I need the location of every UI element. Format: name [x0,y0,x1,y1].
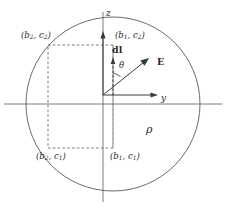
corner-bottom-left-height-sub: 1 [59,154,63,161]
corner-label-top-left: (b2, c2) [21,31,51,40]
corner-bottom-right-base-sub: 1 [119,154,123,161]
corner-bottom-left-base-sub: 2 [45,154,49,161]
corner-bottom-right-height-sub: 1 [133,154,137,161]
y-axis-label: y [161,94,166,103]
dl-vector-label: dl [112,45,122,55]
E-field-label: E [157,57,164,67]
figure-canvas: z y dl θ E ρ (b2, c2) (b1, c2) (b2, c1) … [0,0,226,208]
corner-top-left-base-sub: 2 [30,33,34,40]
corner-top-right-base-sub: 1 [124,33,128,40]
y-axis-arrowhead [151,93,159,98]
corner-top-right-height-sub: 2 [138,33,142,40]
dl-vector-arrowhead [100,31,105,39]
charge-density-label: ρ [146,124,152,135]
corner-label-top-right: (b1, c2) [115,31,145,40]
theta-angle-arc [113,73,121,77]
corner-label-bottom-right: (b1, c1) [110,152,140,161]
corner-label-bottom-left: (b2, c1) [36,152,66,161]
z-axis-label: z [106,9,111,18]
b1-inner-arrowhead [111,57,116,64]
corner-top-left-height-sub: 2 [44,33,48,40]
theta-angle-label: θ [119,61,124,70]
